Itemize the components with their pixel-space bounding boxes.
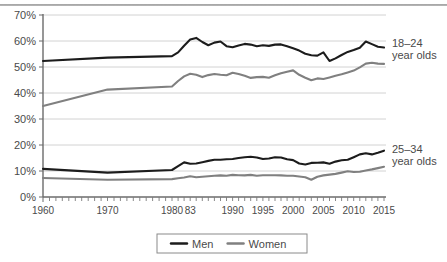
y-axis-label-10: 10% — [14, 165, 36, 177]
annotation-18-24-unit: year olds — [392, 49, 437, 61]
chart-container: 0%10%20%30%40%50%60%70%19601970198083199… — [0, 0, 447, 262]
x-axis-label-2005: 2005 — [312, 205, 335, 216]
y-axis-label-60: 60% — [14, 35, 36, 47]
line-chart: 0%10%20%30%40%50%60%70%19601970198083199… — [0, 0, 447, 262]
y-axis-label-70: 70% — [14, 9, 36, 21]
x-axis-label-2015: 2015 — [373, 205, 396, 216]
series-line-women-18-24 — [43, 63, 384, 106]
legend-label-women: Women — [249, 238, 287, 250]
x-axis-label-83: 83 — [185, 205, 197, 216]
y-axis-label-50: 50% — [14, 61, 36, 73]
x-axis-label-1995: 1995 — [252, 205, 275, 216]
annotation-25-34-range: 25–34 — [392, 143, 423, 155]
x-axis-label-1980: 1980 — [161, 205, 184, 216]
y-axis-label-20: 20% — [14, 139, 36, 151]
y-axis-label-30: 30% — [14, 113, 36, 125]
y-axis-label-0: 0% — [20, 191, 36, 203]
legend-label-men: Men — [192, 238, 213, 250]
x-axis-label-2010: 2010 — [343, 205, 366, 216]
series-line-women-25-34 — [43, 167, 384, 180]
series-line-men-25-34 — [43, 151, 384, 173]
top-divider-rule — [0, 4, 447, 6]
annotation-25-34-unit: year olds — [392, 155, 437, 167]
x-axis-label-2000: 2000 — [282, 205, 305, 216]
x-axis-label-1990: 1990 — [221, 205, 244, 216]
x-axis-label-1970: 1970 — [96, 205, 119, 216]
annotation-18-24-range: 18–24 — [392, 37, 423, 49]
y-axis-label-40: 40% — [14, 87, 36, 99]
x-axis-label-1960: 1960 — [32, 205, 55, 216]
